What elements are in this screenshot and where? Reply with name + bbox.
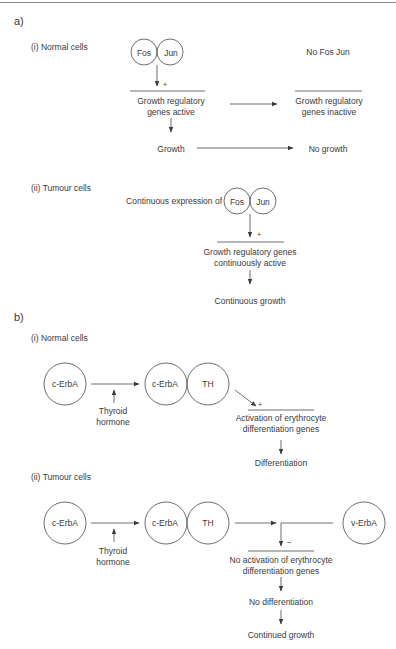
th-label: TH — [202, 518, 213, 528]
section-heading: (ii) Tumour cells — [31, 472, 91, 482]
effect-sign: + — [258, 401, 262, 408]
outcome-label: No differentiation — [249, 597, 313, 607]
genes-label: Growth regulatory — [295, 96, 363, 106]
effect-sign: − — [287, 538, 292, 547]
section-heading: (ii) Tumour cells — [31, 183, 91, 193]
section-heading: (i) Normal cells — [31, 42, 88, 52]
hormone-label: Thyroid — [99, 406, 128, 416]
hormone-label: hormone — [96, 417, 130, 427]
genes-label: No activation of erythrocyte — [230, 555, 333, 565]
genes-label: genes active — [147, 107, 195, 117]
hormone-label: Thyroid — [99, 546, 128, 556]
section-heading: (i) Normal cells — [31, 333, 88, 343]
genes-label: Growth regulatory genes — [203, 247, 296, 257]
fos-label: Fos — [230, 197, 244, 207]
v-erba-label: v-ErbA — [351, 518, 377, 528]
outcome-label: No growth — [309, 144, 348, 154]
effect-sign: + — [257, 231, 261, 238]
c-erba-label: c-ErbA — [52, 379, 78, 389]
c-erba-label: c-ErbA — [152, 518, 178, 528]
outcome-label: Differentiation — [255, 458, 308, 468]
activation-arrow — [235, 390, 256, 406]
th-label: TH — [202, 379, 213, 389]
diagram-canvas: a) (i) Normal cells Fos Jun + No Fos Jun… — [0, 0, 396, 649]
panel-b-label: b) — [14, 311, 24, 323]
genes-label: Growth regulatory — [137, 96, 205, 106]
jun-label: Jun — [164, 48, 178, 58]
genes-label: Activation of erythrocyte — [236, 413, 327, 423]
outcome-label: Growth — [157, 144, 185, 154]
prefix-label: Continuous expression of — [126, 196, 223, 206]
fos-label: Fos — [137, 48, 151, 58]
genes-label: genes inactive — [302, 107, 357, 117]
c-erba-label: c-ErbA — [152, 379, 178, 389]
effect-sign: + — [163, 81, 167, 88]
genes-label: differentiation genes — [243, 424, 319, 434]
genes-label: continuously active — [214, 258, 286, 268]
condition-label: No Fos Jun — [306, 47, 350, 57]
outcome-label: Continued growth — [248, 630, 315, 640]
panel-a-label: a) — [14, 15, 24, 27]
jun-label: Jun — [256, 197, 270, 207]
outcome-label: Continuous growth — [215, 296, 286, 306]
genes-label: differentiation genes — [243, 566, 319, 576]
c-erba-label: c-ErbA — [52, 518, 78, 528]
hormone-label: hormone — [96, 557, 130, 567]
